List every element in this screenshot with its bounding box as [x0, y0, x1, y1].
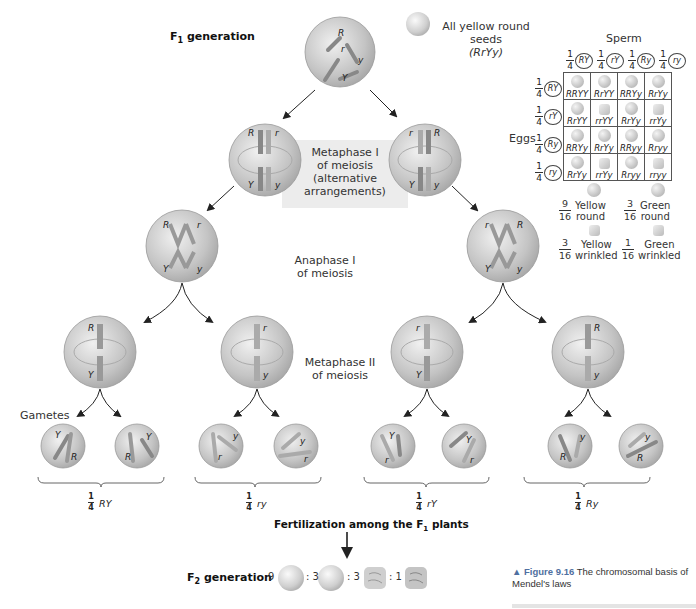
punnett-cell: RrYy: [564, 154, 591, 181]
allele-label: Y: [146, 432, 152, 442]
f2-ratio-3b: : 3: [347, 571, 360, 582]
gamete-fraction-RY: 14 RY: [88, 492, 112, 512]
allele-label: Y: [466, 435, 472, 445]
punnett-cell: rrYy: [591, 154, 618, 181]
allele-label: R: [338, 28, 344, 38]
punnett-cell: RrYy: [645, 73, 672, 100]
metaphase2-cell-Ry: [552, 316, 624, 388]
legend-yellow-wrinkled: 316 Yellowwrinkled: [559, 238, 618, 261]
allele-label: R: [434, 128, 440, 138]
allele-label: y: [263, 370, 268, 380]
anaphase1-label: Anaphase I of meiosis: [280, 254, 370, 280]
f2-yellow-wrinkled-seed: [364, 567, 386, 589]
footer-divider: [512, 604, 696, 608]
green-wrinkled-icon: [653, 225, 664, 236]
allele-label: Y: [342, 73, 348, 83]
metaphase2-cell-rY: [391, 316, 463, 388]
legend-yellow-round: 916 Yellowround: [559, 199, 606, 222]
punnett-cell: rrYY: [591, 100, 618, 127]
f2-ratio-9: 9: [268, 571, 274, 582]
allele-label: y: [594, 370, 599, 380]
allele-label: r: [275, 128, 279, 138]
punnett-cell: RRYY: [564, 73, 591, 100]
metaphase2-cell-RY: [64, 316, 136, 388]
allele-label: R: [517, 220, 523, 230]
allele-label: r: [385, 455, 389, 465]
allele-label: Y: [416, 370, 422, 380]
yellow-wrinkled-icon: [589, 225, 600, 236]
egg-header-3: 14ry: [535, 162, 562, 183]
allele-label: r: [470, 455, 474, 465]
allele-label: r: [263, 323, 267, 333]
allele-label: y: [645, 432, 650, 442]
f1-seeds-label: All yellow round seeds (RrYy): [436, 20, 536, 59]
allele-label: R: [594, 323, 600, 333]
gamete-cells: [41, 424, 663, 468]
sperm-headers: 14RY 14rY 14Ry 14ry: [566, 50, 686, 71]
yellow-round-icon: [587, 183, 601, 197]
punnett-cell: RrYy: [618, 100, 645, 127]
punnett-cell: RRYy: [564, 127, 591, 154]
allele-label: Y: [409, 180, 415, 190]
metaphase1-label: Metaphase I of meiosis (alternative arra…: [282, 146, 408, 198]
allele-label: Y: [248, 180, 254, 190]
allele-label: R: [71, 452, 77, 462]
green-round-icon: [651, 183, 665, 197]
allele-label: R: [125, 452, 131, 462]
f2-green-wrinkled-seed: [405, 567, 427, 589]
allele-label: y: [434, 180, 439, 190]
eggs-label: Eggs: [509, 132, 536, 145]
allele-label: y: [358, 55, 363, 65]
f1-generation-label: F1 generation: [170, 30, 255, 45]
figure-caption: ▲ Figure 9.16 The chromosomal basis of M…: [512, 566, 692, 590]
gamete-fraction-rY: 14 rY: [416, 492, 437, 512]
punnett-cell: rryy: [645, 154, 672, 181]
allele-label: r: [218, 452, 222, 462]
punnett-cell: rrYy: [645, 100, 672, 127]
allele-label: r: [304, 454, 308, 464]
allele-label: Y: [485, 264, 491, 274]
f2-ratio-3a: : 3: [306, 571, 319, 582]
allele-label: y: [275, 180, 280, 190]
punnett-cell: RrYy: [591, 127, 618, 154]
allele-label: y: [517, 264, 522, 274]
allele-label: r: [197, 220, 201, 230]
punnett-cell: RrYY: [564, 100, 591, 127]
metaphase2-label: Metaphase II of meiosis: [300, 356, 380, 382]
fertilization-label: Fertilization among the F1 plants: [274, 518, 469, 533]
allele-label: R: [560, 452, 566, 462]
legend-green-round: 316 Greenround: [624, 199, 670, 222]
gamete-braces: [38, 477, 650, 487]
allele-label: y: [300, 436, 305, 446]
metaphase2-cell-ry: [221, 316, 293, 388]
allele-label: R: [88, 323, 94, 333]
allele-label: y: [197, 264, 202, 274]
gametes-label: Gametes: [20, 409, 70, 422]
legend-green-wrinkled: 116 Greenwrinkled: [622, 238, 681, 261]
punnett-cell: RRyy: [618, 127, 645, 154]
allele-label: R: [248, 128, 254, 138]
anaphase1-left-cell: [146, 210, 218, 282]
allele-label: r: [416, 323, 420, 333]
punnett-cell: RrYY: [591, 73, 618, 100]
allele-label: y: [580, 432, 585, 442]
sperm-label: Sperm: [606, 32, 642, 45]
egg-header-0: 14RY: [535, 78, 562, 99]
punnett-cell: Rryy: [645, 127, 672, 154]
punnett-cell: RRYy: [618, 73, 645, 100]
allele-label: R: [637, 453, 643, 463]
allele-label: Y: [389, 431, 395, 441]
allele-label: r: [485, 220, 489, 230]
gamete-fraction-ry: 14 ry: [246, 492, 267, 512]
egg-header-1: 14rY: [535, 106, 562, 127]
punnett-cell: Rryy: [618, 154, 645, 181]
egg-header-2: 14Ry: [535, 134, 562, 155]
f2-green-round-seed: [318, 565, 344, 591]
allele-label: Y: [163, 264, 169, 274]
yellow-round-seed: [406, 12, 430, 36]
allele-label: R: [163, 220, 169, 230]
f2-generation-label: F2 generation: [187, 571, 272, 586]
allele-label: Y: [88, 370, 94, 380]
allele-label: r: [409, 128, 413, 138]
punnett-square: RRYY RrYY RRYy RrYy RrYY rrYY RrYy rrYy …: [563, 72, 672, 181]
